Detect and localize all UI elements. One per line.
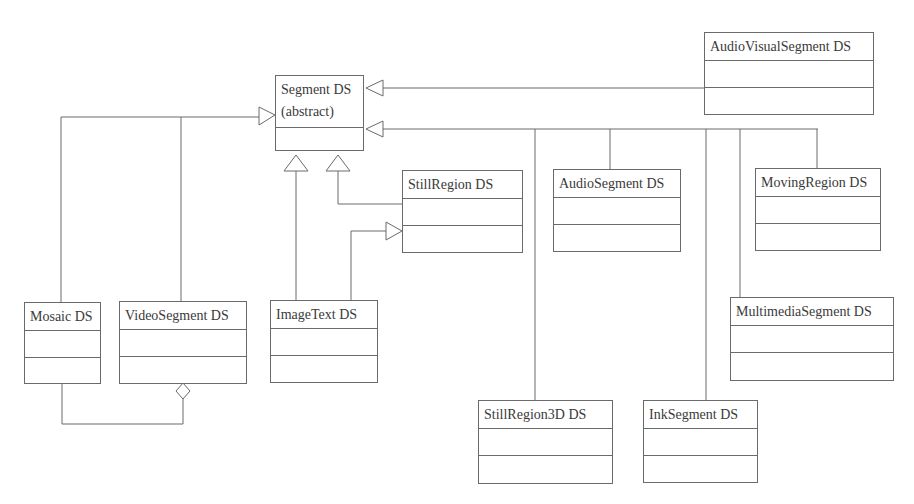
generalization-arrow-audiovisual-icon — [366, 80, 383, 96]
class-audiosegment-attributes — [554, 198, 680, 225]
generalization-arrow-imagetext-stillregion-icon — [386, 222, 402, 240]
class-videosegment-name: VideoSegment DS — [120, 302, 246, 330]
class-audiovisualsegment-attributes — [705, 61, 873, 88]
class-movingregion-name: MovingRegion DS — [756, 169, 880, 197]
aggregation-diamond-icon — [176, 383, 190, 399]
class-imagetext-name: ImageText DS — [271, 301, 377, 329]
generalization-arrow-left-bus-icon — [259, 107, 275, 125]
class-mosaic-name: Mosaic DS — [25, 303, 100, 331]
class-segment-name: Segment DS — [276, 76, 363, 101]
class-stillregion-attributes — [403, 199, 522, 226]
class-audiosegment[interactable]: AudioSegment DS — [553, 169, 681, 252]
class-audiovisualsegment-name: AudioVisualSegment DS — [705, 33, 873, 61]
class-stillregion-name: StillRegion DS — [403, 171, 522, 199]
class-multimediasegment-name: MultimediaSegment DS — [731, 298, 893, 326]
generalization-arrow-right-bus-icon — [366, 121, 383, 137]
class-inksegment[interactable]: InkSegment DS — [643, 400, 758, 483]
line-stillregion-segment — [338, 171, 402, 204]
class-audiosegment-name: AudioSegment DS — [554, 170, 680, 198]
line-imagetext-stillregion — [351, 231, 386, 300]
class-movingregion-attributes — [756, 197, 880, 224]
class-imagetext-attributes — [271, 329, 377, 356]
class-stillregion3d-name: StillRegion3D DS — [479, 401, 612, 429]
class-audiovisualsegment[interactable]: AudioVisualSegment DS — [704, 32, 874, 115]
aggregation-line — [62, 383, 183, 424]
class-movingregion[interactable]: MovingRegion DS — [755, 168, 881, 251]
class-mosaic[interactable]: Mosaic DS — [24, 302, 101, 384]
class-multimediasegment[interactable]: MultimediaSegment DS — [730, 297, 894, 381]
class-videosegment-attributes — [120, 330, 246, 357]
class-segment[interactable]: Segment DS (abstract) — [275, 75, 364, 151]
class-stillregion[interactable]: StillRegion DS — [402, 170, 523, 253]
generalization-arrow-stillregion-icon — [326, 155, 350, 171]
class-imagetext[interactable]: ImageText DS — [270, 300, 378, 383]
class-videosegment[interactable]: VideoSegment DS — [119, 301, 247, 384]
class-stillregion3d-attributes — [479, 429, 612, 456]
class-stillregion3d[interactable]: StillRegion3D DS — [478, 400, 613, 484]
class-segment-stereotype: (abstract) — [276, 101, 363, 128]
class-inksegment-attributes — [644, 429, 757, 456]
class-mosaic-attributes — [25, 331, 100, 358]
generalization-arrow-imagetext-icon — [284, 155, 308, 171]
class-inksegment-name: InkSegment DS — [644, 401, 757, 429]
class-multimediasegment-attributes — [731, 326, 893, 353]
